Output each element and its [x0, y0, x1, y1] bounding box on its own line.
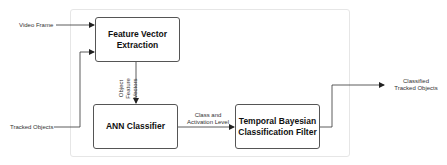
output-line2: Tracked Objects [387, 85, 445, 92]
connectors [0, 0, 447, 165]
feature-node-line2: Extraction [108, 40, 167, 51]
temporal-bayesian-filter-node: Temporal Bayesian Classification Filter [235, 104, 320, 149]
ann-node-label: ANN Classifier [106, 121, 165, 132]
classified-tracked-objects-label: Classified Tracked Objects [387, 78, 445, 92]
tracked-objects-label: Tracked Objects [10, 124, 53, 131]
object-feature-vectors-label: Object Feature Vectors [118, 71, 139, 107]
bayes-node-line1: Temporal Bayesian [238, 116, 316, 127]
feature-vectors-line2: Vectors [132, 71, 139, 107]
feature-vector-extraction-node: Feature Vector Extraction [95, 17, 180, 62]
bayes-node-line2: Classification Filter [238, 127, 316, 138]
video-frame-label: Video Frame [19, 22, 53, 29]
class-line1: Class and [182, 112, 234, 119]
ann-classifier-node: ANN Classifier [93, 104, 178, 149]
class-line2: Activation Level [182, 119, 234, 126]
output-line1: Classified [387, 78, 445, 85]
class-activation-label: Class and Activation Level [182, 112, 234, 126]
feature-vectors-line1: Object Feature [118, 71, 132, 107]
feature-node-line1: Feature Vector [108, 29, 167, 40]
